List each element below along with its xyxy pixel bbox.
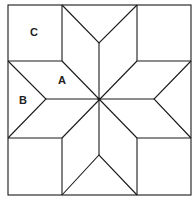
right-v bbox=[154, 61, 191, 138]
label-c: C bbox=[30, 26, 38, 38]
quilt-star-diagram: C A B bbox=[0, 0, 196, 202]
bottom-v bbox=[62, 155, 137, 195]
left-v bbox=[8, 61, 46, 138]
center-point bbox=[97, 97, 100, 100]
top-v bbox=[62, 5, 137, 43]
label-b: B bbox=[19, 94, 27, 106]
label-a: A bbox=[58, 74, 66, 86]
